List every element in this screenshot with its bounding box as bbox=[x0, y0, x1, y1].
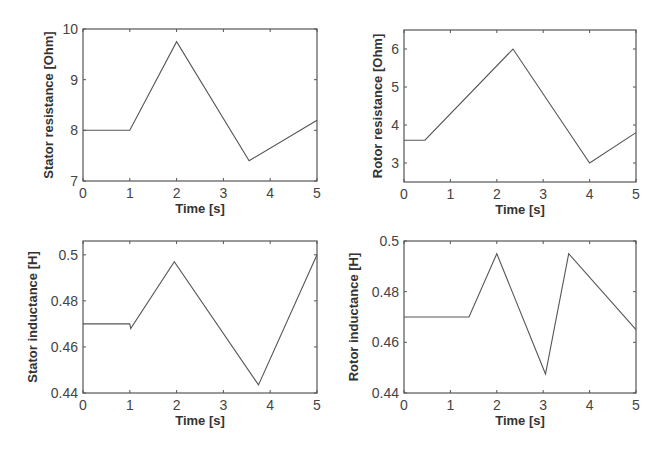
y-tick-label: 0.48 bbox=[372, 284, 399, 300]
x-axis-title: Time [s] bbox=[495, 413, 545, 428]
x-axis-title: Time [s] bbox=[175, 201, 225, 216]
x-tick-label: 5 bbox=[632, 397, 640, 413]
x-tick-label: 3 bbox=[539, 397, 547, 413]
x-tick-label: 5 bbox=[313, 185, 321, 201]
x-tick-label: 5 bbox=[632, 186, 640, 202]
y-tick-label: 9 bbox=[70, 72, 78, 88]
y-tick-label: 0.44 bbox=[372, 385, 399, 401]
x-tick-label: 0 bbox=[400, 397, 408, 413]
x-tick-label: 2 bbox=[493, 186, 501, 202]
axes-box bbox=[83, 241, 317, 393]
x-axis-title: Time [s] bbox=[175, 413, 225, 428]
y-tick-label: 0.46 bbox=[51, 339, 78, 355]
x-tick-label: 0 bbox=[400, 186, 408, 202]
subplot-stator-inductance: 0123450.440.460.480.5Stator inductance [… bbox=[25, 241, 321, 428]
x-tick-label: 5 bbox=[313, 397, 321, 413]
y-tick-label: 0.5 bbox=[59, 247, 79, 263]
y-tick-label: 7 bbox=[70, 173, 78, 189]
subplot-stator-resistance: 01234578910Stator resistance [Ohm]Time [… bbox=[41, 21, 321, 216]
y-axis-title: Rotor inductance [H] bbox=[346, 253, 361, 382]
x-tick-label: 0 bbox=[79, 185, 87, 201]
x-tick-label: 1 bbox=[126, 185, 134, 201]
axes-box bbox=[83, 29, 317, 181]
y-tick-label: 4 bbox=[391, 117, 399, 133]
y-tick-label: 5 bbox=[391, 79, 399, 95]
y-tick-label: 8 bbox=[70, 122, 78, 138]
y-tick-label: 3 bbox=[391, 155, 399, 171]
x-tick-label: 4 bbox=[266, 397, 274, 413]
y-tick-label: 0.44 bbox=[51, 385, 78, 401]
x-tick-label: 2 bbox=[173, 397, 181, 413]
x-axis-title: Time [s] bbox=[495, 202, 545, 217]
x-tick-label: 2 bbox=[493, 397, 501, 413]
y-axis-title: Stator resistance [Ohm] bbox=[41, 31, 56, 178]
y-tick-label: 0.5 bbox=[380, 233, 400, 249]
y-axis-title: Rotor resistance [Ohm] bbox=[370, 34, 385, 178]
y-tick-label: 0.46 bbox=[372, 334, 399, 350]
figure: 01234578910Stator resistance [Ohm]Time [… bbox=[0, 0, 664, 450]
x-tick-label: 3 bbox=[220, 397, 228, 413]
x-tick-label: 1 bbox=[447, 397, 455, 413]
x-tick-label: 1 bbox=[126, 397, 134, 413]
x-tick-label: 0 bbox=[79, 397, 87, 413]
x-tick-label: 4 bbox=[586, 397, 594, 413]
x-tick-label: 4 bbox=[266, 185, 274, 201]
y-tick-label: 6 bbox=[391, 41, 399, 57]
y-tick-label: 0.48 bbox=[51, 293, 78, 309]
y-axis-title: Stator inductance [H] bbox=[25, 251, 40, 382]
axes-box bbox=[404, 30, 636, 182]
y-tick-label: 10 bbox=[62, 21, 78, 37]
subplot-rotor-resistance: 0123453456Rotor resistance [Ohm]Time [s] bbox=[370, 30, 640, 217]
x-tick-label: 2 bbox=[173, 185, 181, 201]
x-tick-label: 3 bbox=[220, 185, 228, 201]
subplot-rotor-inductance: 0123450.440.460.480.5Rotor inductance [H… bbox=[346, 233, 640, 428]
x-tick-label: 1 bbox=[447, 186, 455, 202]
x-tick-label: 4 bbox=[586, 186, 594, 202]
x-tick-label: 3 bbox=[539, 186, 547, 202]
